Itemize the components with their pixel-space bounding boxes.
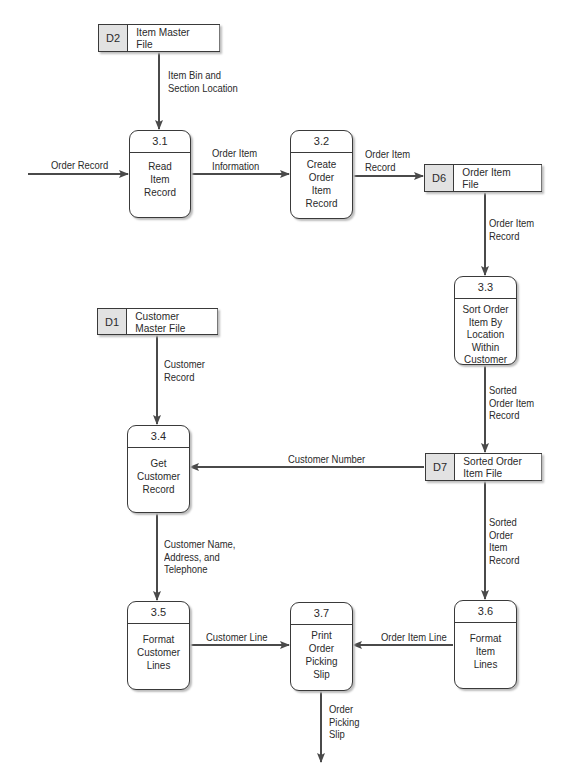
- data-store-edge: [541, 454, 542, 480]
- data-store-edge: [217, 309, 218, 334]
- process-name: Format Customer Lines: [131, 624, 186, 672]
- data-store-id: D1: [98, 309, 127, 334]
- process-3-7[interactable]: 3.7 Print Order Picking Slip: [290, 602, 353, 691]
- process-3-1[interactable]: 3.1 Read Item Record: [129, 130, 191, 218]
- process-3-2[interactable]: 3.2 Create Order Item Record: [290, 130, 353, 219]
- process-id: 3.4: [128, 426, 189, 448]
- flow-label-order-picking-slip: Order Picking Slip: [329, 703, 359, 741]
- data-store-name: Item Master File: [128, 25, 190, 51]
- process-name: Create Order Item Record: [294, 153, 349, 210]
- data-store-name: Customer Master File: [127, 309, 185, 334]
- flow-label-order-record: Order Record: [51, 159, 108, 172]
- flow-label-customer-number: Customer Number: [288, 453, 365, 466]
- flow-label-customer-record: Customer Record: [164, 358, 205, 383]
- flow-label-sorted-order-item-record-1: Sorted Order Item Record: [489, 384, 534, 422]
- process-3-3[interactable]: 3.3 Sort Order Item By Location Within C…: [454, 276, 517, 365]
- process-id: 3.6: [455, 601, 516, 623]
- process-name: Sort Order Item By Location Within Custo…: [458, 299, 513, 366]
- flow-label-item-bin: Item Bin and Section Location: [168, 69, 238, 94]
- flow-label-order-item-line: Order Item Line: [381, 631, 447, 644]
- data-store-id: D2: [99, 25, 128, 51]
- process-3-6[interactable]: 3.6 Format Item Lines: [454, 600, 517, 689]
- flow-label-sorted-order-item-record-2: Sorted Order Item Record: [489, 516, 519, 566]
- data-store-d7[interactable]: D7 Sorted Order Item File: [425, 453, 542, 481]
- data-store-name: Sorted Order Item File: [455, 454, 522, 480]
- process-name: Get Customer Record: [131, 448, 186, 496]
- flow-label-customer-line: Customer Line: [206, 631, 267, 644]
- data-store-id: D6: [425, 165, 454, 191]
- flow-label-order-item-record-2: Order Item Record: [489, 217, 534, 242]
- data-flow-diagram: D2 Item Master File D6 Order Item File D…: [0, 0, 569, 784]
- flow-label-customer-name-address: Customer Name, Address, and Telephone: [164, 538, 235, 576]
- data-store-edge: [541, 165, 542, 191]
- flow-label-order-item-information: Order Item Information: [212, 147, 259, 172]
- process-3-5[interactable]: 3.5 Format Customer Lines: [127, 601, 190, 690]
- flow-label-order-item-record-1: Order Item Record: [365, 148, 410, 173]
- process-id: 3.5: [128, 602, 189, 624]
- process-id: 3.2: [291, 131, 352, 153]
- process-id: 3.3: [455, 277, 516, 299]
- data-store-id: D7: [426, 454, 455, 480]
- data-store-name: Order Item File: [454, 165, 511, 191]
- process-name: Format Item Lines: [458, 623, 513, 671]
- process-id: 3.1: [130, 131, 190, 153]
- process-name: Print Order Picking Slip: [294, 625, 349, 681]
- process-id: 3.7: [291, 603, 352, 625]
- process-name: Read Item Record: [133, 153, 187, 199]
- data-store-d1[interactable]: D1 Customer Master File: [97, 308, 218, 335]
- data-store-edge: [219, 25, 220, 51]
- process-3-4[interactable]: 3.4 Get Customer Record: [127, 425, 190, 513]
- data-store-d2[interactable]: D2 Item Master File: [98, 24, 220, 52]
- data-store-d6[interactable]: D6 Order Item File: [424, 164, 542, 192]
